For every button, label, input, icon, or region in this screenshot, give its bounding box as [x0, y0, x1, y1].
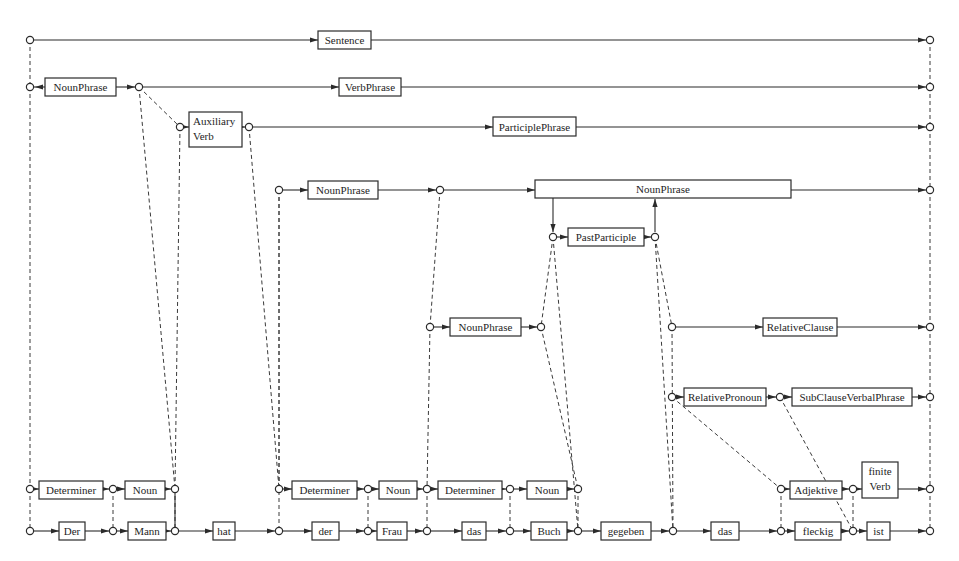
dashed-link: [139, 87, 180, 127]
junction-node-icon: [926, 36, 933, 43]
junction-node-icon: [364, 485, 371, 492]
arrowhead-icon: [755, 324, 763, 329]
chart-node-relativeclause: RelativeClause: [763, 318, 837, 336]
junction-node-icon: [668, 323, 675, 330]
node-label: Adjektive: [794, 484, 837, 496]
junction-node-icon: [426, 323, 433, 330]
arrowhead-icon: [428, 187, 436, 192]
chart-node-nounphrase: NounPhrase: [308, 181, 378, 199]
junction-node-icon: [849, 485, 856, 492]
chart-node-frau: Frau: [377, 522, 407, 540]
arrowhead-icon: [661, 528, 669, 533]
junction-node-icon: [537, 323, 544, 330]
junction-node-icon: [506, 527, 513, 534]
arrowhead-icon: [593, 528, 601, 533]
node-label: Sentence: [325, 34, 365, 46]
arrowhead-icon: [918, 324, 926, 329]
node-label: Determiner: [46, 484, 96, 496]
chart-node-adjektive: Adjektive: [790, 481, 842, 499]
node-label: Determiner: [299, 484, 349, 496]
arrowhead-icon: [768, 394, 776, 399]
nodes-layer: SentenceNounPhraseVerbPhraseAuxiliaryVer…: [39, 31, 912, 540]
junction-node-icon: [777, 485, 784, 492]
arrowhead-icon: [442, 324, 450, 329]
chart-node-finite-verb: finiteVerb: [862, 462, 898, 498]
chart-node-nounphrase: NounPhrase: [450, 318, 521, 336]
node-label: RelativePronoun: [688, 391, 762, 403]
dashed-link: [430, 190, 440, 327]
junction-node-icon: [926, 186, 933, 193]
arrowhead-icon: [485, 124, 493, 129]
arrowhead-icon: [527, 187, 535, 192]
arrowhead-icon: [787, 528, 795, 533]
arrowhead-icon: [550, 224, 555, 232]
chart-node-ist: ist: [867, 522, 890, 540]
node-label: Frau: [382, 525, 403, 537]
arrowhead-icon: [117, 486, 125, 491]
junction-node-icon: [26, 83, 33, 90]
arrowhead-icon: [769, 528, 777, 533]
node-label: fleckig: [803, 525, 834, 537]
arrowhead-icon: [918, 37, 926, 42]
arrowhead-icon: [918, 486, 926, 491]
junction-node-icon: [436, 186, 443, 193]
junction-node-icon: [651, 233, 658, 240]
chart-node-determiner: Determiner: [39, 481, 103, 499]
arrowhead-icon: [415, 528, 423, 533]
junction-node-icon: [176, 123, 183, 130]
arrowhead-icon: [371, 486, 379, 491]
chart-node-fleckig: fleckig: [795, 522, 841, 540]
junction-node-icon: [668, 393, 675, 400]
node-label: RelativeClause: [767, 321, 834, 333]
junction-node-icon: [135, 83, 142, 90]
chart-node-auxiliary-verb: AuxiliaryVerb: [189, 112, 242, 147]
arrowhead-icon: [529, 324, 537, 329]
node-label: Der: [64, 525, 81, 537]
junction-node-icon: [506, 485, 513, 492]
junction-node-icon: [574, 485, 581, 492]
dashed-link: [139, 87, 175, 489]
arrowhead-icon: [300, 187, 308, 192]
dashed-link: [249, 127, 279, 489]
dashed-link: [655, 237, 673, 531]
junction-node-icon: [26, 36, 33, 43]
arrowhead-icon: [703, 528, 711, 533]
arrowhead-icon: [127, 84, 135, 89]
node-label: Noun: [133, 484, 158, 496]
node-label: SubClauseVerbalPhrase: [799, 391, 904, 403]
chart-node-sentence: Sentence: [318, 31, 371, 49]
chart-node-der: Der: [59, 522, 85, 540]
parse-chart-diagram: SentenceNounPhraseVerbPhraseAuxiliaryVer…: [0, 0, 959, 561]
dashed-link: [175, 127, 180, 489]
junction-node-icon: [275, 186, 282, 193]
node-label: das: [718, 525, 733, 537]
node-label: Buch: [537, 525, 561, 537]
arrowhead-icon: [430, 486, 438, 491]
arrowhead-icon: [676, 394, 684, 399]
node-label: VerbPhrase: [345, 81, 395, 93]
node-label: gegeben: [608, 525, 645, 537]
arrowhead-icon: [918, 124, 926, 129]
node-label: Noun: [386, 484, 411, 496]
junction-node-icon: [926, 527, 933, 534]
dashed-links-layer: [30, 40, 930, 531]
arrowhead-icon: [784, 394, 792, 399]
chart-node-das: das: [462, 522, 486, 540]
chart-node-subclauseverbalphrase: SubClauseVerbalPhrase: [792, 388, 912, 406]
chart-node-participlephrase: ParticiplePhrase: [493, 117, 576, 136]
junctions-layer: [26, 36, 933, 534]
arrowhead-icon: [284, 486, 292, 491]
junction-node-icon: [423, 527, 430, 534]
chart-node-hat: hat: [213, 522, 235, 540]
arrowhead-icon: [560, 234, 568, 239]
chart-node-buch: Buch: [531, 522, 567, 540]
arrowhead-icon: [519, 486, 527, 491]
node-label: NounPhrase: [54, 81, 108, 93]
junction-node-icon: [245, 123, 252, 130]
junction-node-icon: [109, 485, 116, 492]
dashed-link: [672, 397, 781, 489]
node-label: Noun: [535, 484, 560, 496]
arrowhead-icon: [267, 528, 275, 533]
junction-node-icon: [849, 527, 856, 534]
dashed-link: [780, 397, 853, 531]
